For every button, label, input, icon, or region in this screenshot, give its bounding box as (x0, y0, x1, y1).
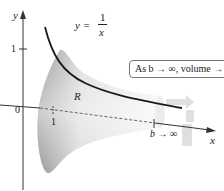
equation-denominator: x (99, 26, 104, 38)
equation-lhs: y = (75, 19, 90, 31)
region-label: R (74, 91, 81, 102)
origin-label: 0 (15, 105, 20, 115)
y-axis-label: y (13, 10, 18, 21)
x-tick-label: 1 (51, 117, 56, 127)
volume-callout: As b → ∞, volume → π (129, 60, 224, 78)
y-tick-label: 1 (11, 44, 16, 54)
fraction-bar (98, 24, 107, 25)
x-axis-arrow-icon (206, 127, 216, 133)
x-tick-b-label: b → ∞ (150, 129, 177, 139)
horn-diagram (0, 0, 224, 191)
y-axis-arrow-icon (20, 10, 26, 19)
x-axis-label: x (210, 135, 215, 146)
equation-numerator: 1 (100, 11, 106, 23)
